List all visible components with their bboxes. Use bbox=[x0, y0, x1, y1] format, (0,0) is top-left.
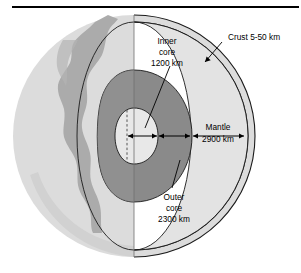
inner-core-label-line1: Inner bbox=[158, 36, 177, 46]
outer-core-label-line1: Outer bbox=[164, 192, 185, 202]
outer-core-label-line2: core bbox=[166, 203, 183, 213]
mantle-label-line1: Mantle bbox=[206, 122, 231, 132]
mantle-label-line2: 2900 km bbox=[202, 134, 234, 144]
earth-cutaway-diagram: Crust 5-50 km Inner core 1200 km Outer c… bbox=[0, 0, 301, 273]
outer-core-label-line3: 2300 km bbox=[158, 214, 190, 224]
crust-label: Crust 5-50 km bbox=[228, 32, 280, 42]
inner-core-label-line3: 1200 km bbox=[151, 58, 183, 68]
inner-core-label-line2: core bbox=[159, 47, 176, 57]
